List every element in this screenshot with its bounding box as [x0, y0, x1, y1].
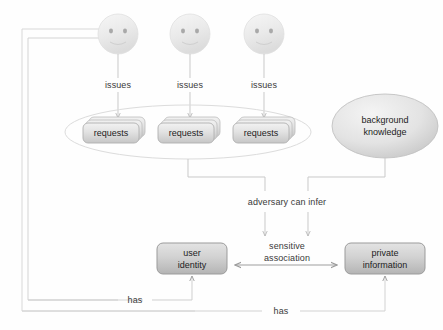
adversary-can-infer-label: adversary can infer [248, 197, 326, 208]
feedback-loop-inner [28, 38, 143, 300]
actor-user-1[interactable] [98, 14, 138, 54]
diagram-svg [0, 0, 443, 330]
knowledge-to-adversary-edge [308, 158, 385, 191]
issues-label-1: issues [105, 80, 131, 91]
diagram-canvas: issues issues issues requests requests r… [0, 0, 443, 330]
background-knowledge-label-line1: background [361, 115, 408, 126]
actor-user-3[interactable] [244, 14, 284, 54]
private-information-label-line1: private [371, 248, 398, 259]
has-left-edge [28, 276, 192, 300]
issues-label-3: issues [251, 80, 277, 91]
private-information-label-line2: information [363, 260, 408, 271]
issues-label-2: issues [177, 80, 203, 91]
has-right-edge [22, 276, 385, 311]
background-knowledge-label-line2: knowledge [363, 127, 406, 138]
user-identity-label-line2: identity [178, 260, 207, 271]
sensitive-association-label-line2: association [264, 253, 310, 264]
requests-label-3: requests [244, 128, 279, 139]
has-label-right: has [274, 306, 289, 317]
has-label-left: has [128, 295, 143, 306]
requests-label-1: requests [94, 128, 129, 139]
actor-user-2[interactable] [170, 14, 210, 54]
requests-label-2: requests [169, 128, 204, 139]
sensitive-association-label-line1: sensitive [269, 241, 305, 252]
user-identity-label-line1: user [183, 248, 201, 259]
requests-to-adversary-edge [188, 159, 265, 191]
